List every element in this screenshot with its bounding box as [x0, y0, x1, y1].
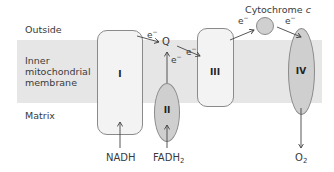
complex-iv-label: IV	[296, 66, 306, 76]
membrane-label-line-2: mitochondrial	[25, 66, 91, 77]
cytochrome-c-suffix: c	[306, 4, 311, 15]
cytochrome-c-label: Cytochrome c	[245, 4, 311, 15]
o2-label: O2	[295, 152, 307, 167]
membrane-label-line-1: Inner	[25, 55, 91, 66]
membrane-label: Inner mitochondrial membrane	[25, 55, 91, 88]
electron-label-q-to-iii: e−	[186, 45, 197, 57]
outside-label: Outside	[25, 24, 62, 35]
matrix-label: Matrix	[25, 110, 55, 121]
complex-iii-label: III	[210, 67, 220, 77]
membrane-label-line-3: membrane	[25, 77, 91, 88]
electron-label-ii-to-q: e−	[171, 53, 182, 65]
fadh2-label: FADH2	[153, 152, 184, 167]
nadh-label: NADH	[106, 152, 136, 163]
electron-label-iii-to-cytc: e−	[238, 14, 249, 26]
complex-ii-label: II	[164, 105, 171, 115]
complex-i-label: I	[118, 69, 121, 79]
complex-i	[97, 30, 143, 135]
electron-label-i-to-q: e−	[147, 28, 158, 40]
cytochrome-c-circle	[256, 17, 274, 35]
electron-label-cytc-to-iv: e−	[285, 14, 296, 26]
ubiquinone-q: Q	[162, 36, 170, 47]
